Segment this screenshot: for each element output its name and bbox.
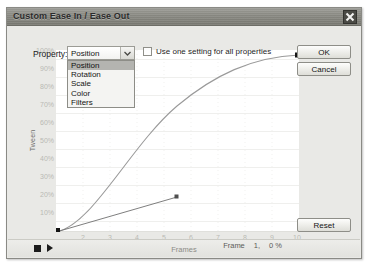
dropdown-option-scale[interactable]: Scale [68,79,134,88]
readout-frame-label: Frame [223,241,245,250]
y-tick-label: 90% [32,65,54,72]
y-tick-label: 10% [32,209,54,216]
y-tick-label: 40% [32,155,54,162]
dropdown-option-filters[interactable]: Filters [68,98,134,107]
window-title: Custom Ease In / Ease Out [13,11,130,21]
tangent-handle-point [175,195,179,199]
property-select[interactable]: Position [67,46,135,60]
ease-graph-panel[interactable]: Tween 100% 90% 80% 70% 60% 50% 40% 30% 2… [24,41,299,248]
custom-ease-dialog: Custom Ease In / Ease Out Tween 100% 90%… [6,7,362,259]
dropdown-option-rotation[interactable]: Rotation [68,70,134,79]
frame-readout: Frame 1, 0 % [223,241,282,250]
use-one-setting-label: Use one setting for all properties [156,47,271,56]
dropdown-option-color[interactable]: Color [68,89,134,98]
dropdown-option-position[interactable]: Position [68,61,134,70]
y-tick-label: 50% [32,137,54,144]
dialog-titlebar[interactable]: Custom Ease In / Ease Out [7,8,361,26]
y-axis-tick-labels: 100% 90% 80% 70% 60% 50% 40% 30% 20% 10% [28,41,54,248]
y-tick-label: 60% [32,119,54,126]
x-axis-title: Frames [8,245,360,254]
property-label: Property: [33,49,68,59]
y-tick-label: 30% [32,173,54,180]
y-tick-label: 70% [32,101,54,108]
chevron-down-icon[interactable] [120,47,134,59]
use-one-setting-checkbox[interactable] [143,47,152,56]
close-icon[interactable] [342,9,357,24]
y-tick-label: 80% [32,83,54,90]
property-dropdown-list[interactable]: Position Rotation Scale Color Filters [67,60,135,108]
ok-button[interactable]: OK [297,45,351,59]
reset-button[interactable]: Reset [297,218,351,232]
property-select-value: Position [71,49,99,58]
y-tick-label: 20% [32,191,54,198]
control-point-start [56,228,60,232]
bottom-toolbar: Frames Frame 1, 0 % [8,239,360,257]
readout-frame-value: 1, [254,241,260,250]
use-one-setting-checkbox-row[interactable]: Use one setting for all properties [143,47,271,56]
cancel-button[interactable]: Cancel [297,62,351,76]
readout-percent-value: 0 % [269,241,282,250]
